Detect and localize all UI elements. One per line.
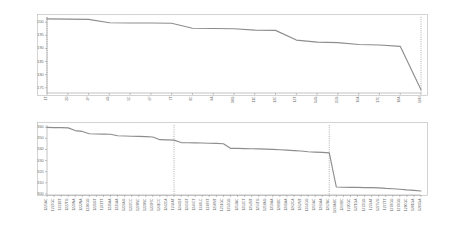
x-tick-label: 1269ABC <box>333 198 337 213</box>
x-tick-label: 18A <box>397 96 401 103</box>
y-tick-label: 175 <box>37 85 44 90</box>
x-tick-label: 1251GC <box>220 198 224 211</box>
x-tick-label: 2D <box>65 96 69 101</box>
x-tick-label: 1277TT <box>383 199 387 211</box>
x-tick-label: 1289BC <box>277 198 281 211</box>
x-tick-label: 1255TG <box>256 198 260 211</box>
x-tick-label: 1227TG <box>65 198 69 211</box>
x-tick-label: 1259AA <box>270 198 274 211</box>
x-tick-label: 13T <box>293 97 297 103</box>
x-tick-label: 1242CA <box>164 198 168 211</box>
x-tick-label: 1239RC <box>150 198 154 211</box>
line-chart-bottom-svg: 300310320330340350360 1225AC1227GC1231BT… <box>0 114 449 228</box>
x-tick-label: 1252GG <box>227 198 231 211</box>
x-tick-label: 1264GG <box>305 198 309 211</box>
x-tick-label: 1269BC <box>340 198 344 211</box>
x-tick-label: 1275VG <box>376 198 380 211</box>
x-tick-label: 1239NC <box>143 198 147 211</box>
y-tick-label: 185 <box>37 59 44 64</box>
y-tick-label: 200 <box>37 19 44 24</box>
x-tick-label: 1231BT <box>58 199 62 211</box>
x-tick-label: 1272GG <box>362 198 366 211</box>
x-tick-label: 1267AC <box>326 198 330 211</box>
x-tick-label: 1279GG <box>397 198 401 211</box>
x-tick-label: 1236AG <box>122 198 126 211</box>
x-tick-label: 1235AA <box>115 198 119 211</box>
x-tick-label: 1274AT <box>369 199 373 211</box>
x-tick-label: 11C <box>252 96 256 103</box>
x-tick-label: 1266AA <box>319 198 323 211</box>
y-tick-label: 310 <box>37 180 44 185</box>
top-x-axis-ticks: 1T2D3F4G5C6F7T8C9A10G11C12C13T14G15G16A1… <box>44 93 422 103</box>
top-y-axis-ticks: 175180185190195200 <box>37 17 47 93</box>
x-tick-label: 16A <box>356 96 360 103</box>
x-tick-label: 1222NA <box>79 198 83 211</box>
y-tick-label: 340 <box>37 146 44 151</box>
x-tick-label: 1246CT <box>192 199 196 211</box>
x-tick-label: 6F <box>148 97 152 101</box>
x-tick-label: 1261AA <box>284 198 288 211</box>
x-tick-label: 1280GC <box>404 198 408 211</box>
x-tick-label: 1237CC <box>129 198 133 211</box>
x-tick-label: 1281GA <box>411 198 415 211</box>
x-tick-label: 7T <box>169 97 173 101</box>
x-tick-label: 1270GC <box>347 198 351 211</box>
x-tick-label: 1262CA <box>291 198 295 211</box>
x-tick-label: 14G <box>314 96 318 103</box>
x-tick-label: 1271GA <box>354 198 358 211</box>
x-tick-label: 1254NT <box>249 199 253 211</box>
top-plot-frame <box>38 15 428 96</box>
x-tick-label: 9A <box>210 96 214 101</box>
x-tick-label: 1244GT <box>178 199 182 211</box>
bottom-x-axis-ticks: 1225AC1227GC1231BT1227TG1239NA1222NA1230… <box>44 195 422 213</box>
bottom-guide-lines <box>174 125 329 195</box>
x-tick-label: 19M <box>418 96 422 103</box>
y-tick-label: 350 <box>37 135 44 140</box>
corner-glyph: · <box>6 60 7 65</box>
x-tick-label: 1253CT <box>242 199 246 211</box>
x-tick-label: 15G <box>335 96 339 103</box>
x-tick-label: 1245GT <box>185 199 189 211</box>
y-tick-label: 180 <box>37 72 44 77</box>
x-tick-label: 1253AC <box>235 198 239 211</box>
x-tick-label: 5C <box>127 96 131 101</box>
line-chart-bottom: 300310320330340350360 1225AC1227GC1231BT… <box>0 114 449 228</box>
line-chart-top: · 175180185190195200 1T2D3F4G5C6F7T8C9A1… <box>0 0 449 114</box>
y-tick-label: 360 <box>37 124 44 129</box>
x-tick-label: 1238NC <box>136 198 140 211</box>
x-tick-label: 1231GT <box>93 199 97 211</box>
y-tick-label: 190 <box>37 45 44 50</box>
bottom-series-line <box>47 127 421 191</box>
x-tick-label: 1278GG <box>390 198 394 211</box>
x-tick-label: 1230GG <box>86 198 90 211</box>
x-tick-label: 10G <box>231 96 235 103</box>
x-tick-label: 8C <box>189 96 193 101</box>
x-tick-label: 1258AG <box>263 198 267 211</box>
x-tick-label: 1283GA <box>418 198 422 211</box>
bottom-y-axis-ticks: 300310320330340350360 <box>37 124 47 196</box>
x-tick-label: 1231AA <box>108 198 112 211</box>
x-tick-label: 1250NT <box>213 199 217 211</box>
x-tick-label: 1248ST <box>206 199 210 211</box>
x-tick-label: 1239NA <box>72 198 76 211</box>
x-tick-label: 1231TT <box>100 199 104 211</box>
y-tick-label: 330 <box>37 158 44 163</box>
x-tick-label: 12C <box>273 96 277 103</box>
x-tick-label: 1241CC <box>157 198 161 211</box>
line-chart-top-svg: · 175180185190195200 1T2D3F4G5C6F7T8C9A1… <box>0 0 449 114</box>
x-tick-label: 1265AC <box>312 198 316 211</box>
top-series-line <box>47 19 421 90</box>
x-tick-label: 1244AT <box>171 199 175 211</box>
x-tick-label: 4G <box>106 96 110 101</box>
x-tick-label: 1227GC <box>51 198 55 211</box>
y-tick-label: 300 <box>37 191 44 196</box>
x-tick-label: 1T <box>44 97 48 101</box>
x-tick-label: 1262NT <box>298 199 302 211</box>
x-tick-label: 1225AC <box>44 198 48 211</box>
top-corner-glyph-group: · <box>6 60 7 65</box>
x-tick-label: 1248LC <box>199 198 203 210</box>
x-tick-label: 17C <box>376 96 380 103</box>
y-tick-label: 195 <box>37 32 44 37</box>
x-tick-label: 3F <box>86 97 90 101</box>
y-tick-label: 320 <box>37 169 44 174</box>
